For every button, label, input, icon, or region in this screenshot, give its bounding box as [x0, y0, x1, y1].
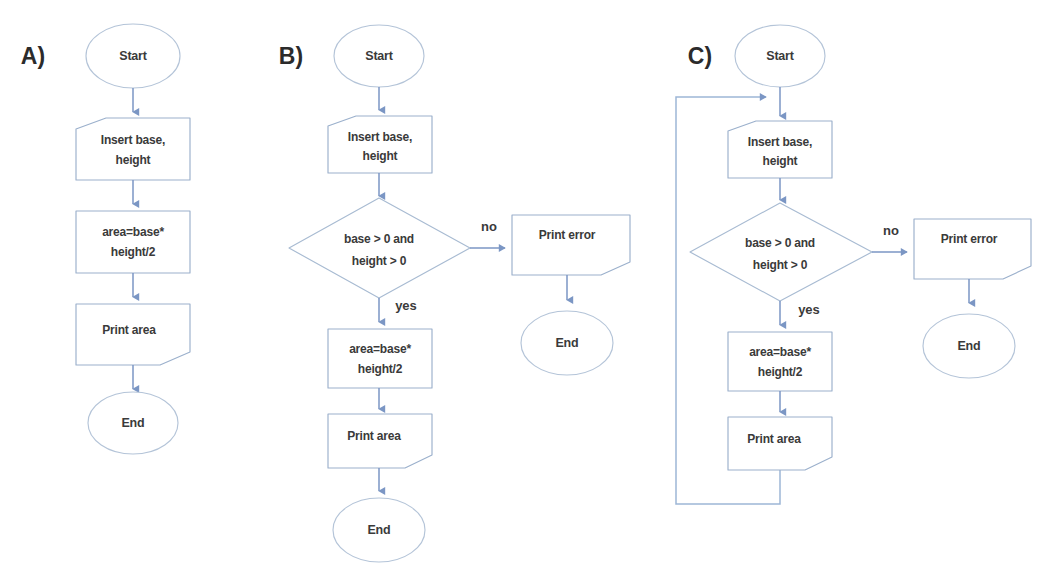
decision-label-line1: base > 0 and: [745, 236, 815, 250]
panel-b-end-node: End: [333, 498, 425, 562]
panel-b-process-node: area=base* height/2: [328, 329, 432, 388]
process-shape: [76, 211, 190, 273]
panel-a: A) Start Insert base, height area=base* …: [21, 24, 190, 454]
end-label: End: [367, 523, 390, 537]
manual-output-shape: [914, 219, 1031, 279]
process-label-line1: area=base*: [349, 342, 411, 356]
panel-b-decision-node: base > 0 and height > 0: [289, 198, 470, 298]
panel-c: C) Start Insert base, height base > 0 an…: [676, 25, 1031, 504]
manual-input-shape: [328, 116, 432, 173]
decision-shape: [289, 198, 470, 298]
panel-b: B) Start Insert base, height base > 0 an…: [279, 25, 630, 562]
panel-c-process-node: area=base* height/2: [728, 332, 832, 391]
manual-output-shape: [512, 215, 630, 275]
end-label: End: [121, 416, 144, 430]
manual-input-shape: [76, 118, 190, 180]
input-label-line1: Insert base,: [348, 130, 412, 144]
panel-b-start-node: Start: [334, 25, 424, 87]
panel-c-edge-label-yes: yes: [798, 302, 820, 317]
panel-a-input-node: Insert base, height: [76, 118, 190, 180]
panel-a-output-node: Print area: [76, 304, 190, 365]
output-label: Print area: [102, 323, 156, 337]
panel-c-edge-label-no: no: [883, 223, 899, 238]
panel-b-edge-label-no: no: [481, 219, 497, 234]
manual-input-shape: [728, 121, 832, 178]
panel-c-error-output-node: Print error: [914, 219, 1031, 279]
panel-c-output-node: Print area: [728, 417, 832, 470]
panel-b-label: B): [279, 43, 303, 69]
flowchart-figure: A) Start Insert base, height area=base* …: [0, 0, 1043, 581]
start-label: Start: [119, 49, 148, 63]
process-shape: [328, 329, 432, 388]
process-label-line1: area=base*: [749, 345, 811, 359]
panel-c-label: C): [688, 43, 712, 69]
flowchart-canvas: A) Start Insert base, height area=base* …: [0, 0, 1043, 581]
decision-shape: [690, 203, 872, 301]
error-end-label: End: [555, 336, 578, 350]
panel-b-error-end-node: End: [521, 311, 613, 375]
input-label-line2: height: [116, 153, 151, 167]
error-output-label: Print error: [539, 228, 596, 242]
process-label-line2: height/2: [358, 362, 403, 376]
panel-a-start-node: Start: [86, 24, 180, 88]
input-label-line1: Insert base,: [101, 133, 165, 147]
output-label: Print area: [347, 429, 401, 443]
error-end-label: End: [957, 339, 980, 353]
panel-c-start-node: Start: [735, 25, 825, 87]
process-shape: [728, 332, 832, 391]
input-label-line1: Insert base,: [748, 135, 812, 149]
process-label-line1: area=base*: [102, 225, 164, 239]
panel-a-end-node: End: [88, 392, 178, 454]
input-label-line2: height: [363, 149, 398, 163]
panel-b-error-output-node: Print error: [512, 215, 630, 275]
panel-a-process-node: area=base* height/2: [76, 211, 190, 273]
process-label-line2: height/2: [111, 245, 156, 259]
error-output-label: Print error: [941, 232, 998, 246]
panel-c-decision-node: base > 0 and height > 0: [690, 203, 872, 301]
panel-b-output-node: Print area: [328, 414, 432, 468]
process-label-line2: height/2: [758, 365, 803, 379]
output-label: Print area: [747, 432, 801, 446]
decision-label-line2: height > 0: [753, 258, 808, 272]
panel-c-error-end-node: End: [923, 314, 1015, 378]
decision-label-line1: base > 0 and: [344, 232, 414, 246]
start-label: Start: [766, 49, 795, 63]
panel-a-label: A): [21, 43, 45, 69]
decision-label-line2: height > 0: [352, 254, 407, 268]
panel-c-input-node: Insert base, height: [728, 121, 832, 178]
start-label: Start: [365, 49, 394, 63]
input-label-line2: height: [763, 154, 798, 168]
panel-b-edge-label-yes: yes: [395, 298, 417, 313]
panel-b-input-node: Insert base, height: [328, 116, 432, 173]
